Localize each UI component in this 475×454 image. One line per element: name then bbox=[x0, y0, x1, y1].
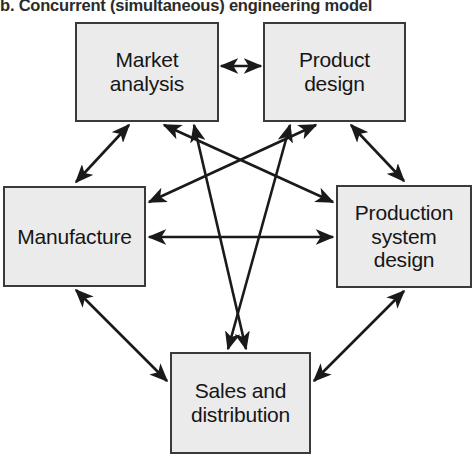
node-production-system-design-line-2: system bbox=[351, 225, 457, 249]
node-market-analysis[interactable]: Market analysis bbox=[75, 22, 219, 122]
node-manufacture[interactable]: Manufacture bbox=[3, 186, 146, 287]
node-product-design-line-1: Product bbox=[295, 48, 374, 72]
edge-market-analysis-manufacture bbox=[76, 125, 129, 182]
node-manufacture-line-1: Manufacture bbox=[13, 225, 136, 249]
node-sales-and-distribution-line-1: Sales and bbox=[187, 379, 294, 403]
node-manufacture-label: Manufacture bbox=[9, 225, 140, 249]
node-product-design-line-2: design bbox=[295, 72, 374, 96]
node-sales-and-distribution-label: Sales and distribution bbox=[183, 379, 298, 426]
edge-product-design-manufacture bbox=[149, 125, 316, 202]
node-sales-and-distribution-line-2: distribution bbox=[187, 403, 294, 427]
node-market-analysis-line-2: analysis bbox=[106, 72, 188, 96]
edge-production-system-design-sales-and-distribution bbox=[314, 291, 404, 381]
node-sales-and-distribution[interactable]: Sales and distribution bbox=[170, 352, 311, 454]
node-product-design[interactable]: Product design bbox=[263, 22, 406, 122]
node-production-system-design-line-1: Production bbox=[351, 201, 457, 225]
edge-manufacture-sales-and-distribution bbox=[76, 290, 167, 381]
figure-canvas: b. Concurrent (simultaneous) engineering… bbox=[0, 0, 475, 454]
edge-product-design-production-system-design bbox=[351, 125, 404, 181]
edge-market-analysis-production-system-design bbox=[164, 125, 333, 202]
node-market-analysis-label: Market analysis bbox=[102, 48, 192, 95]
node-product-design-label: Product design bbox=[291, 48, 378, 95]
node-production-system-design[interactable]: Production system design bbox=[336, 185, 472, 288]
node-production-system-design-line-3: design bbox=[351, 248, 457, 272]
node-production-system-design-label: Production system design bbox=[347, 201, 461, 272]
node-market-analysis-line-1: Market bbox=[106, 48, 188, 72]
